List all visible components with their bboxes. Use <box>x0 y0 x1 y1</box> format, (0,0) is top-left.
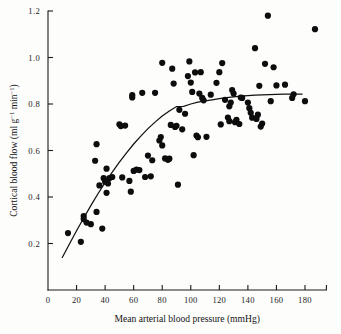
data-point <box>166 156 172 162</box>
data-point <box>265 13 271 19</box>
data-point <box>192 69 198 75</box>
data-point <box>189 89 195 95</box>
data-point <box>142 174 148 180</box>
data-point <box>302 98 308 104</box>
x-tick-label: 120 <box>212 295 226 305</box>
y-tick-label: 0.8 <box>28 99 40 109</box>
data-point <box>198 69 204 75</box>
fit-curve-group <box>62 94 302 257</box>
data-point <box>169 66 175 72</box>
y-tick-label: 0.4 <box>28 192 40 202</box>
data-point <box>273 82 279 88</box>
data-point <box>179 126 185 132</box>
data-point <box>109 174 115 180</box>
x-axis-title: Mean arterial blood pressure (mmHg) <box>114 313 259 325</box>
data-point <box>201 97 207 103</box>
data-point <box>256 83 262 89</box>
data-point <box>159 142 165 148</box>
data-point <box>290 91 296 97</box>
data-point <box>176 107 182 113</box>
data-point <box>78 239 84 245</box>
data-point <box>93 141 99 147</box>
data-point <box>88 221 94 227</box>
data-point <box>259 120 265 126</box>
data-point <box>228 100 234 106</box>
chart-figure: 0.20.40.60.81.01.2 020406080100120140160… <box>0 0 341 334</box>
data-point <box>239 95 245 101</box>
data-point <box>213 80 219 86</box>
data-point <box>92 158 98 164</box>
x-tick-label: 80 <box>158 295 167 305</box>
data-point <box>129 92 135 98</box>
data-point <box>171 80 177 86</box>
data-point <box>173 123 179 129</box>
data-point <box>65 230 71 236</box>
data-point <box>268 98 274 104</box>
x-axis-ticks: 020406080100120140160180 <box>46 285 327 305</box>
data-point <box>122 123 128 129</box>
data-point <box>149 157 155 163</box>
data-point <box>136 167 142 173</box>
data-point <box>262 61 268 67</box>
y-axis-ticks: 0.20.40.60.81.01.2 <box>28 6 53 249</box>
data-point <box>96 182 102 188</box>
x-tick-label: 0 <box>46 295 51 305</box>
data-point <box>175 182 181 188</box>
data-points-group <box>65 13 318 245</box>
data-point <box>103 190 109 196</box>
y-tick-label: 0.2 <box>28 239 40 249</box>
data-point <box>158 134 164 140</box>
data-point <box>195 134 201 140</box>
data-point <box>282 82 288 88</box>
data-point <box>186 58 192 64</box>
data-point <box>93 209 99 215</box>
y-tick-label: 1.0 <box>28 53 40 63</box>
data-point <box>231 90 237 96</box>
data-point <box>222 97 228 103</box>
x-tick-label: 100 <box>184 295 198 305</box>
data-point <box>216 69 222 75</box>
data-point <box>139 90 145 96</box>
x-tick-label: 180 <box>298 295 312 305</box>
data-point <box>185 73 191 79</box>
x-tick-label: 60 <box>129 295 138 305</box>
scatter-plot: 0.20.40.60.81.01.2 020406080100120140160… <box>0 0 341 334</box>
x-tick-label: 20 <box>72 295 81 305</box>
y-axis-title: Cortical blood flow (ml g−1 min−1) <box>8 84 21 217</box>
data-point <box>219 60 225 66</box>
y-tick-label: 1.2 <box>28 6 40 16</box>
data-point <box>312 26 318 32</box>
data-point <box>270 64 276 70</box>
data-point <box>255 112 261 118</box>
data-point <box>99 226 105 232</box>
fit-curve <box>62 94 302 257</box>
data-point <box>203 134 209 140</box>
data-point <box>128 189 134 195</box>
data-point <box>226 118 232 124</box>
x-tick-label: 160 <box>270 295 284 305</box>
data-point <box>191 152 197 158</box>
data-point <box>148 173 154 179</box>
data-point <box>105 180 111 186</box>
y-tick-label: 0.6 <box>28 146 40 156</box>
data-point <box>159 60 165 66</box>
x-tick-label: 40 <box>101 295 110 305</box>
data-point <box>103 166 109 172</box>
data-point <box>245 100 251 106</box>
axes-group <box>48 11 326 290</box>
data-point <box>208 92 214 98</box>
data-point <box>126 178 132 184</box>
data-point <box>145 153 151 159</box>
data-point <box>218 121 224 127</box>
x-tick-label: 140 <box>241 295 255 305</box>
data-point <box>252 45 258 51</box>
data-point <box>182 111 188 117</box>
data-point <box>119 174 125 180</box>
data-point <box>188 80 194 86</box>
data-point <box>236 121 242 127</box>
data-point <box>152 90 158 96</box>
